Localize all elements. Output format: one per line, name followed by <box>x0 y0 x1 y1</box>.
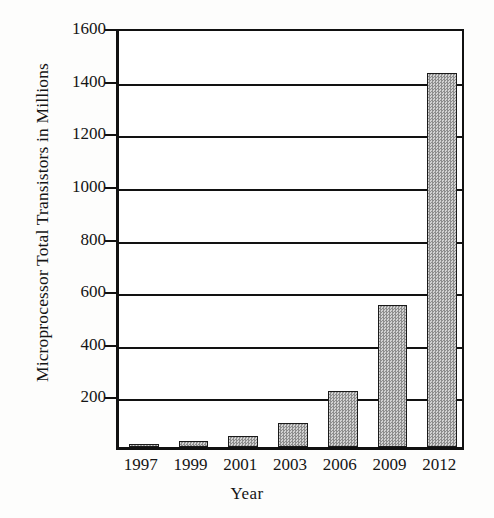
y-tick-mark-1200 <box>105 134 116 136</box>
x-axis-title: Year <box>0 484 494 504</box>
y-tick-mark-1600 <box>105 29 116 31</box>
y-tick-mark-1400 <box>105 82 116 84</box>
y-tick-mark-800 <box>105 240 116 242</box>
y-tick-label-800: 800 <box>44 231 106 248</box>
bar-chart-figure: Microprocessor Total Transistors in Mill… <box>0 0 494 518</box>
y-tick-mark-1000 <box>105 187 116 189</box>
bar-2001 <box>228 436 258 447</box>
gridline-1200 <box>119 136 462 138</box>
gridline-800 <box>119 242 462 244</box>
y-tick-label-1600: 1600 <box>44 20 106 37</box>
y-axis-title: Microprocessor Total Transistors in Mill… <box>32 3 53 443</box>
y-tick-label-200: 200 <box>44 388 106 405</box>
bar-2009 <box>378 305 408 447</box>
y-tick-label-400: 400 <box>44 336 106 353</box>
bar-2003 <box>278 423 308 447</box>
gridline-1400 <box>119 84 462 86</box>
plot-inner <box>119 31 462 447</box>
gridline-1000 <box>119 189 462 191</box>
y-tick-label-1200: 1200 <box>44 125 106 142</box>
bar-1997 <box>129 444 159 448</box>
bar-2012 <box>427 73 457 447</box>
x-tick-label-2012: 2012 <box>409 456 469 473</box>
y-tick-label-1400: 1400 <box>44 73 106 90</box>
bar-1999 <box>179 441 209 447</box>
gridline-600 <box>119 294 462 296</box>
y-tick-mark-200 <box>105 397 116 399</box>
plot-area <box>116 29 464 450</box>
y-tick-mark-600 <box>105 292 116 294</box>
y-tick-label-1000: 1000 <box>44 178 106 195</box>
gridline-200 <box>119 399 462 401</box>
gridline-400 <box>119 347 462 349</box>
y-tick-label-600: 600 <box>44 283 106 300</box>
y-tick-mark-400 <box>105 345 116 347</box>
bar-2006 <box>328 391 358 447</box>
